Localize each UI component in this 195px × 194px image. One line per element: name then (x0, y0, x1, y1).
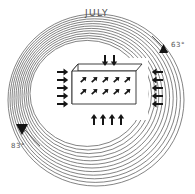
landmass-block (72, 64, 142, 104)
inflow-arrow-east (152, 93, 163, 100)
right-inflow-arrow-group (152, 69, 163, 108)
climate-diagram-canvas: JULY (0, 0, 195, 194)
temp-marker-top-right[interactable]: 63° (152, 36, 185, 53)
box-front-face (72, 71, 136, 104)
temp-label-83: 83° (11, 142, 25, 150)
diagram-svg: JULY (0, 0, 195, 194)
temp-label-63: 63° (171, 41, 185, 49)
inflow-arrow-east (152, 101, 163, 108)
box-top-face (72, 64, 142, 71)
